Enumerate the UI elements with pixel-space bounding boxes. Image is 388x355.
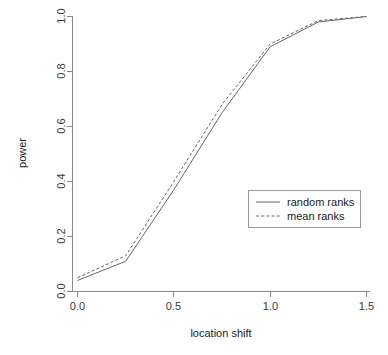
x-axis-ticks: 0.0 0.5 1.0 1.5 xyxy=(70,292,374,313)
y-tick-label-1: 0.2 xyxy=(55,228,67,243)
y-axis-ticks: 0.0 0.2 0.4 0.6 0.8 1.0 xyxy=(55,8,73,298)
y-tick-label-5: 1.0 xyxy=(55,8,67,23)
y-tick-label-2: 0.4 xyxy=(55,173,67,188)
y-tick-label-0: 0.0 xyxy=(55,283,67,298)
x-tick-label-1: 0.5 xyxy=(166,300,181,312)
power-curve-chart: 0.0 0.2 0.4 0.6 0.8 1.0 0.0 0.5 1.0 1.5 … xyxy=(0,0,388,355)
y-axis-title: power xyxy=(16,138,28,168)
x-tick-label-0: 0.0 xyxy=(70,300,85,312)
legend-label-random-ranks: random ranks xyxy=(287,196,355,208)
x-axis-title: location shift xyxy=(190,327,251,339)
chart-figure: 0.0 0.2 0.4 0.6 0.8 1.0 0.0 0.5 1.0 1.5 … xyxy=(0,0,388,355)
y-tick-label-3: 0.6 xyxy=(55,118,67,133)
series-line-random-ranks xyxy=(78,17,367,281)
x-tick-label-2: 1.0 xyxy=(263,300,278,312)
series-line-mean-ranks xyxy=(78,17,367,278)
x-tick-label-3: 1.5 xyxy=(359,300,374,312)
legend-label-mean-ranks: mean ranks xyxy=(287,210,345,222)
y-tick-label-4: 0.8 xyxy=(55,63,67,78)
chart-legend: random ranks mean ranks xyxy=(249,191,361,228)
